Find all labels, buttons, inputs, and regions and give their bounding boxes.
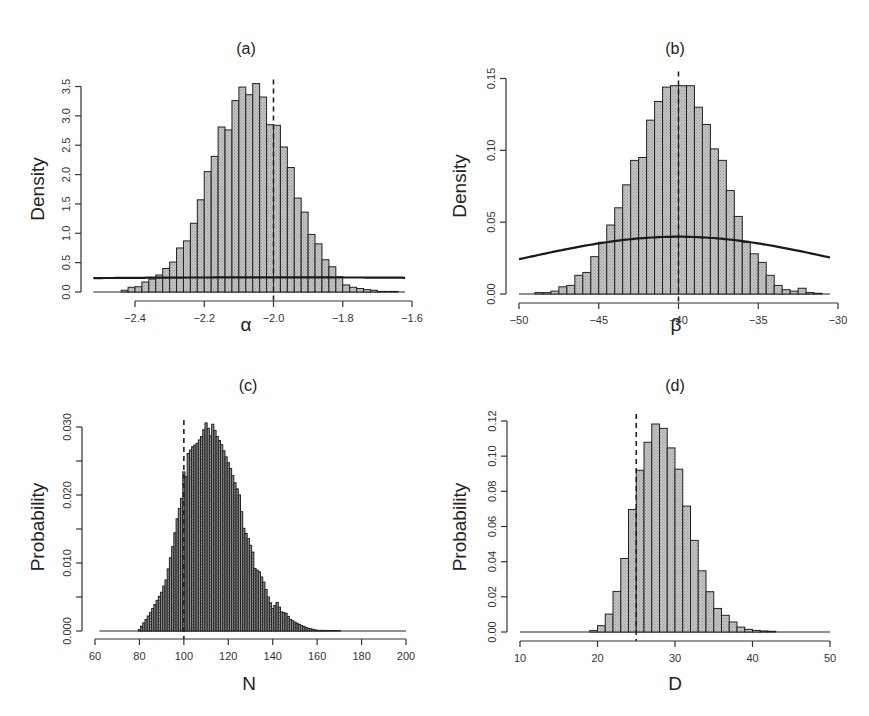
histogram-bar [535, 293, 543, 294]
histogram-bar [615, 208, 623, 294]
histogram-bar [135, 287, 142, 292]
x-tick-label: 120 [219, 650, 237, 662]
panel-b-title: (b) [665, 40, 685, 57]
histogram-bar [598, 626, 606, 632]
histogram-bar [253, 84, 260, 292]
histogram-bar [734, 216, 742, 294]
histogram-bar [121, 290, 128, 292]
histogram-bar [605, 614, 613, 632]
histogram-bar [575, 275, 583, 294]
histogram-bar [691, 540, 699, 632]
histogram-bar [583, 272, 591, 294]
histogram-bar [758, 262, 766, 294]
histogram-bar [729, 622, 737, 632]
histogram-bar [753, 630, 761, 632]
x-tick-label: 30 [669, 652, 681, 664]
panel-a-ylabel: Density [27, 157, 48, 221]
panel-a-xlabel: α [241, 314, 252, 335]
y-tick-label: 0.15 [485, 68, 497, 89]
panel-b-ylabel: Density [449, 154, 470, 218]
panel-c-ylabel: Probability [27, 482, 48, 571]
x-tick-label: 200 [397, 650, 415, 662]
x-tick-label: 60 [89, 650, 101, 662]
histogram-bar [384, 291, 391, 292]
histogram-bar [782, 290, 790, 294]
histogram-bar [639, 158, 647, 294]
panel-d-xaxis: 1020304050 [514, 641, 836, 664]
histogram-bar [308, 234, 315, 292]
histogram-bar [183, 241, 190, 292]
y-tick-label: 0.06 [486, 516, 498, 537]
histogram-bar [745, 629, 753, 632]
prior-density-curve [93, 277, 405, 278]
histogram-bar [660, 428, 668, 632]
histogram-bar [260, 97, 267, 292]
x-tick-label: 50 [824, 652, 836, 664]
figure-2x2-histograms: (a) Density α 0.00.51.01.52.02.53.03.5 −… [0, 0, 869, 716]
histogram-bar [218, 127, 225, 292]
histogram-bar [280, 147, 287, 292]
panel-b-yaxis: 0.000.050.100.15 [485, 68, 506, 305]
histogram-bar [655, 101, 663, 294]
panel-c-yaxis: 0.0000.0100.0200.030 [61, 413, 82, 645]
histogram-bar [663, 87, 671, 294]
histogram-bar [790, 291, 798, 294]
histogram-bar [613, 591, 621, 632]
histogram-bar [543, 293, 551, 294]
histogram-bar [636, 470, 644, 632]
histogram-bar [391, 291, 398, 292]
histogram-bar [350, 287, 357, 292]
histogram-bar [239, 87, 246, 292]
histogram-bar [671, 86, 679, 294]
histogram-bar [315, 244, 322, 292]
histogram-bar [177, 248, 184, 292]
panel-c-xaxis: 6080100120140160180200 [89, 639, 415, 662]
x-tick-label: −40 [669, 314, 688, 326]
panel-c-xlabel: N [242, 673, 256, 694]
y-tick-label: 0.030 [61, 413, 73, 441]
y-tick-label: 0.5 [60, 255, 72, 270]
y-tick-label: 0.020 [61, 481, 73, 509]
panel-a-yaxis: 0.00.51.01.52.02.53.03.5 [60, 79, 81, 300]
histogram-bar [591, 257, 599, 294]
histogram-bar [357, 288, 364, 292]
histogram-bar [364, 290, 371, 292]
histogram-bar [814, 293, 822, 294]
y-tick-label: 0.08 [486, 481, 498, 502]
histogram-bar [706, 592, 714, 632]
panel-d-bars [520, 424, 830, 632]
panel-c: (c) Probability N 0.0000.0100.0200.030 6… [27, 377, 415, 694]
histogram-bar [163, 269, 170, 292]
histogram-bar [750, 254, 758, 294]
y-tick-label: 0.02 [486, 586, 498, 607]
y-tick-label: 3.0 [60, 108, 72, 123]
y-tick-label: 0.10 [486, 445, 498, 466]
histogram-bar [370, 290, 377, 292]
histogram-bar [190, 223, 197, 292]
histogram-bar [621, 559, 629, 632]
histogram-bar [336, 277, 343, 292]
y-tick-label: 0.00 [486, 621, 498, 642]
histogram-bar [675, 469, 683, 632]
y-tick-label: 0.0 [60, 284, 72, 299]
x-tick-label: −1.6 [401, 312, 423, 324]
y-tick-label: 0.010 [61, 549, 73, 577]
histogram-bar [714, 608, 722, 632]
histogram-bar [559, 287, 567, 294]
histogram-bar [710, 149, 718, 294]
y-tick-label: 2.0 [60, 167, 72, 182]
histogram-bar [225, 130, 232, 292]
histogram-bar [806, 293, 814, 294]
panel-d-xlabel: D [668, 673, 682, 694]
histogram-bar [301, 212, 308, 292]
histogram-bar [679, 86, 687, 294]
panel-a-bars [93, 84, 405, 292]
y-tick-label: 0.05 [485, 211, 497, 232]
histogram-bar [766, 275, 774, 294]
x-tick-label: −35 [749, 314, 768, 326]
x-tick-label: −45 [589, 314, 608, 326]
panel-c-bars [99, 423, 406, 631]
histogram-bar [760, 631, 768, 632]
panel-b: (b) Density β 0.000.050.100.15 −50−45−40… [449, 40, 847, 335]
histogram-bar [128, 287, 135, 292]
